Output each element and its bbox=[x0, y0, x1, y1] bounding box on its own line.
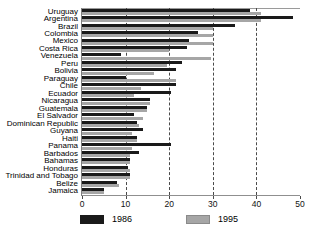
bar-1995 bbox=[82, 12, 261, 15]
bar-row: Trinidad and Tobago bbox=[0, 173, 317, 180]
bar-1995 bbox=[82, 19, 261, 22]
bar-row: Peru bbox=[0, 60, 317, 67]
legend-item-1986: 1986 bbox=[80, 214, 132, 224]
bar-1995 bbox=[82, 169, 130, 172]
x-tick-label-10: 10 bbox=[121, 199, 130, 209]
bar-row: Paraguay bbox=[0, 75, 317, 82]
bar-1995 bbox=[82, 102, 150, 105]
x-tick-label-30: 30 bbox=[208, 199, 217, 209]
x-tick-label-20: 20 bbox=[164, 199, 173, 209]
bar-1995 bbox=[82, 147, 132, 150]
bar-1995 bbox=[82, 109, 147, 112]
bar-1995 bbox=[82, 132, 132, 135]
bar-row: Guyana bbox=[0, 128, 317, 135]
category-label: Jamaica bbox=[48, 187, 78, 195]
legend-swatch-1986 bbox=[80, 215, 104, 224]
bar-row: Venezuela bbox=[0, 53, 317, 60]
x-tick-label-50: 50 bbox=[295, 199, 304, 209]
bar-1995 bbox=[82, 184, 119, 187]
legend-label-1986: 1986 bbox=[112, 214, 132, 224]
bar-1995 bbox=[82, 161, 130, 164]
bar-1995 bbox=[82, 49, 169, 52]
bar-1995 bbox=[82, 94, 134, 97]
bar-1995 bbox=[82, 176, 130, 179]
x-tick-label-0: 0 bbox=[80, 199, 85, 209]
bar-1995 bbox=[82, 124, 139, 127]
bar-chart: 01020304050 UruguayArgentinaBrazilColomb… bbox=[0, 0, 317, 237]
bar-1995 bbox=[82, 139, 137, 142]
bar-row: Jamaica bbox=[0, 188, 317, 195]
bar-1995 bbox=[82, 27, 213, 30]
chart-legend: 1986 1995 bbox=[0, 214, 317, 232]
bar-1995 bbox=[82, 87, 141, 90]
bar-1995 bbox=[82, 64, 167, 67]
bar-1995 bbox=[82, 191, 104, 194]
bar-1995 bbox=[82, 72, 154, 75]
x-axis-line bbox=[82, 195, 300, 196]
x-tick-label-40: 40 bbox=[252, 199, 261, 209]
legend-swatch-1995 bbox=[186, 215, 210, 224]
bar-1995 bbox=[82, 154, 130, 157]
bar-1995 bbox=[82, 34, 213, 37]
bar-1995 bbox=[82, 117, 143, 120]
bar-row: Colombia bbox=[0, 30, 317, 37]
bar-1995 bbox=[82, 42, 213, 45]
legend-label-1995: 1995 bbox=[218, 214, 238, 224]
bar-1995 bbox=[82, 79, 176, 82]
bar-row: Argentina bbox=[0, 15, 317, 22]
legend-item-1995: 1995 bbox=[186, 214, 238, 224]
bar-rows: UruguayArgentinaBrazilColombiaMexicoCost… bbox=[0, 0, 317, 195]
bar-row: Dominican Republic bbox=[0, 120, 317, 127]
bar-1995 bbox=[82, 57, 211, 60]
